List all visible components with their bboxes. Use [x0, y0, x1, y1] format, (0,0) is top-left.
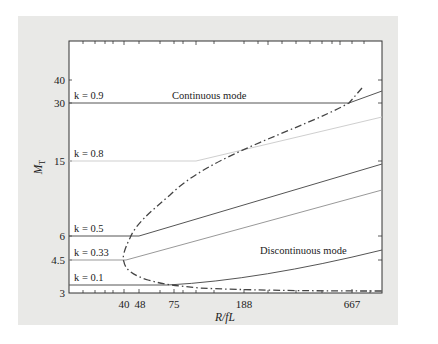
label-k-0.8: k = 0.8 [74, 148, 104, 159]
x-tick-667: 667 [344, 298, 361, 310]
y-axis-title-sub: T [38, 160, 47, 165]
x-tick-75: 75 [169, 298, 181, 310]
y-tick-40: 40 [54, 74, 66, 86]
continuous-mode-label: Continuous mode [172, 90, 247, 101]
y-tick-30: 30 [54, 97, 66, 109]
x-tick-188: 188 [236, 298, 253, 310]
y-tick-6: 6 [60, 230, 66, 242]
y-tick-3: 3 [60, 287, 66, 299]
svg-text:MT: MT [32, 160, 47, 176]
label-k-0.1: k = 0.1 [74, 272, 104, 283]
chart: k = 0.9 k = 0.8 k = 0.5 k = 0.33 k = 0.1… [0, 0, 438, 344]
x-tick-48: 48 [135, 298, 147, 310]
label-k-0.9: k = 0.9 [74, 90, 104, 101]
label-k-0.33: k = 0.33 [74, 247, 109, 258]
label-k-0.5: k = 0.5 [74, 223, 104, 234]
x-axis-title: R/fL [214, 311, 235, 324]
discontinuous-mode-label: Discontinuous mode [260, 245, 347, 256]
y-tick-15: 15 [54, 155, 66, 167]
y-axis-title: MT [32, 160, 47, 176]
x-tick-40: 40 [119, 298, 131, 310]
y-tick-4.5: 4.5 [51, 254, 65, 266]
